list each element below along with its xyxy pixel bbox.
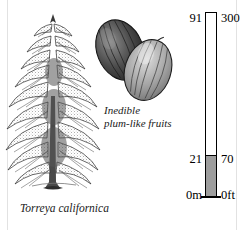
scale-tick-base-imperial: 0ft <box>221 188 235 203</box>
scale-baseline-tick <box>201 196 221 198</box>
scale-tick-mid-imperial: 70 <box>221 152 234 167</box>
fruit-illustration <box>82 12 182 108</box>
scale-column <box>205 12 217 198</box>
scale-tick-top-imperial: 300 <box>221 11 240 26</box>
illustration-area: Inedible plum-like fruits Torreya califo… <box>0 0 186 230</box>
fruit-caption-line-1: Inedible <box>104 104 172 117</box>
fruit-caption-line-2: plum-like fruits <box>104 117 172 130</box>
fruit-caption: Inedible plum-like fruits <box>104 104 172 130</box>
height-scale-bar: 91 300 21 70 0m 0ft <box>182 0 243 230</box>
botanical-plate: Inedible plum-like fruits Torreya califo… <box>0 0 243 230</box>
scale-tick-top-metric: 91 <box>182 11 202 26</box>
scale-fill-height-indicator <box>206 155 216 197</box>
scale-tick-base-metric: 0m <box>178 188 202 203</box>
species-name-caption: Torreya californica <box>20 202 109 216</box>
scale-tick-mid-metric: 21 <box>182 152 202 167</box>
